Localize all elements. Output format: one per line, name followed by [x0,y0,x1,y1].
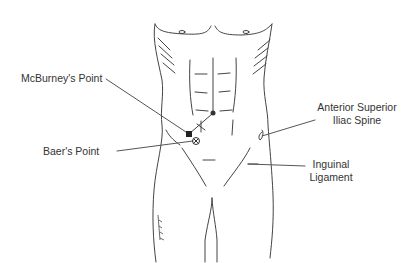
asis-pointer [262,120,315,136]
navel-marker [211,111,216,116]
inguinal-pointer [248,164,305,166]
right-asis-curve [259,130,263,140]
anatomy-diagram: McBurney's Point Baer's Point Anterior S… [0,0,408,263]
left-body-outline [153,24,163,262]
label-baers-point: Baer's Point [43,145,99,158]
label-mcburney-point: McBurney's Point [21,72,102,85]
left-nipple [179,31,185,34]
label-asis-line1: Anterior Superior [310,101,404,114]
right-body-outline [264,24,273,258]
right-rectus-line [233,58,236,112]
left-rectus-line [190,60,193,115]
left-inguinal-line [182,148,206,186]
baer-pointer [117,141,193,151]
label-inguinal-line2: Ligament [304,171,358,184]
artist-signature [158,215,164,240]
torso-drawing [0,0,408,263]
right-nipple [243,31,249,34]
thigh-divider [205,198,212,262]
left-pectoral-outline [155,24,211,34]
mcburney-pointer [106,79,189,134]
right-inguinal-line [224,148,250,186]
mcburney-marker [186,131,192,137]
label-inguinal-line1: Inguinal [308,158,354,171]
label-asis-line2: Iliac Spine [310,114,404,127]
baer-marker [193,138,200,145]
